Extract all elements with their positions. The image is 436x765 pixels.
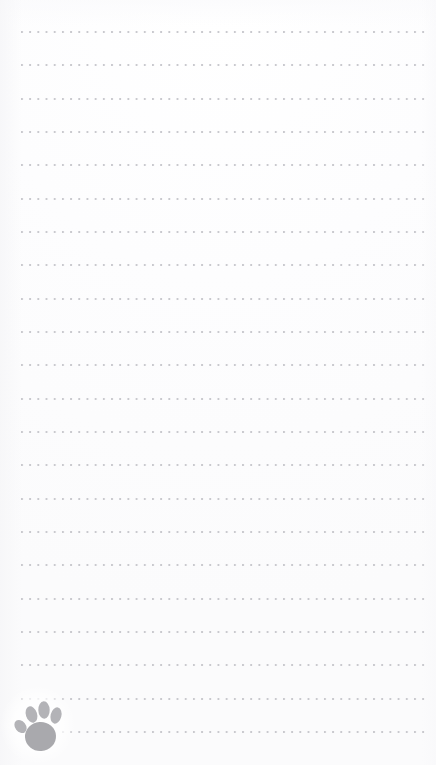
dotted-line-row	[21, 697, 427, 700]
dotted-line-row	[21, 663, 427, 666]
dotted-rule-lines	[0, 0, 436, 765]
dotted-line-row	[21, 130, 427, 133]
dotted-line-row	[21, 230, 427, 233]
dotted-line-row	[21, 197, 427, 200]
dotted-line-row	[21, 597, 427, 600]
dotted-line-row	[21, 530, 427, 533]
dotted-line-row	[21, 297, 427, 300]
dotted-line-row	[21, 63, 427, 66]
dotted-line-row	[21, 630, 427, 633]
dotted-line-row	[21, 730, 427, 733]
dotted-line-row	[21, 397, 427, 400]
dotted-line-row	[21, 330, 427, 333]
dotted-line-row	[21, 163, 427, 166]
dotted-line-row	[21, 363, 427, 366]
dotted-line-row	[21, 97, 427, 100]
dotted-line-row	[21, 263, 427, 266]
dotted-line-row	[21, 563, 427, 566]
dotted-line-row	[21, 430, 427, 433]
dotted-line-row	[21, 497, 427, 500]
dotted-line-row	[21, 463, 427, 466]
paw-print-icon	[12, 697, 64, 753]
dotted-line-row	[21, 30, 427, 33]
notepad-page	[0, 0, 436, 765]
